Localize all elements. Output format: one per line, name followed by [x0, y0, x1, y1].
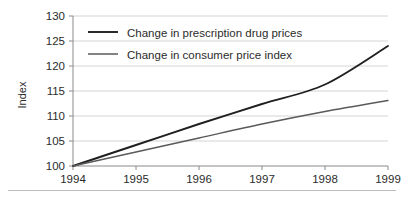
legend-label-2: Change in consumer price index	[127, 49, 292, 61]
y-tick-label: 130	[46, 10, 65, 22]
legend-label-1: Change in prescription drug prices	[127, 27, 302, 39]
y-tick-label: 125	[46, 35, 65, 47]
x-tick-label: 1995	[123, 173, 149, 185]
line-chart: 100105110115120125130 199419951996199719…	[0, 0, 404, 201]
y-tick-label: 105	[46, 135, 65, 147]
x-tick-label: 1994	[60, 173, 86, 185]
y-tick-label: 110	[47, 110, 65, 122]
y-tick-label: 100	[46, 160, 65, 172]
chart-figure: 100105110115120125130 199419951996199719…	[0, 0, 404, 201]
x-tick-label: 1998	[312, 173, 338, 185]
x-tick-label: 1997	[249, 173, 275, 185]
y-axis-title: Index	[16, 81, 28, 108]
x-tick-label: 1996	[186, 173, 212, 185]
x-tick-label: 1999	[375, 173, 401, 185]
y-tick-label: 115	[47, 85, 65, 97]
y-tick-label: 120	[46, 60, 65, 72]
